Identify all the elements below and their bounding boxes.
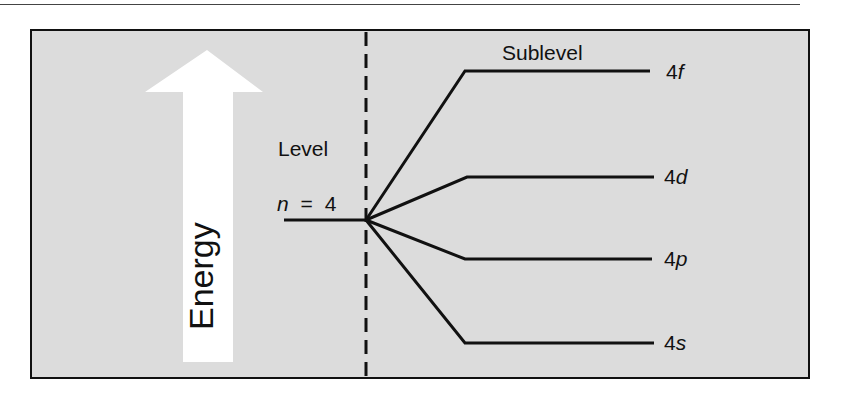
energy-level-diagram [0, 0, 849, 401]
sublevel-heading: Sublevel [502, 42, 583, 63]
sublevel-letter: d [676, 165, 688, 188]
sublevel-letter: p [676, 247, 688, 270]
sublevel-label-4f: 4f [666, 61, 684, 82]
sublevel-label-4s: 4s [664, 332, 686, 353]
level-label: Level [278, 138, 328, 159]
sublevel-letter: s [676, 331, 687, 354]
sublevel-letter: f [678, 60, 684, 83]
sublevel-line-4d [366, 177, 654, 220]
sublevel-principal: 4 [666, 60, 678, 83]
energy-axis-label: Energy [182, 222, 221, 330]
level-equals: = [301, 192, 313, 215]
sublevel-principal: 4 [664, 165, 676, 188]
level-symbol: n [277, 192, 289, 215]
sublevel-label-4p: 4p [664, 248, 687, 269]
level-n4-label: n = 4 [277, 193, 336, 214]
sublevel-principal: 4 [664, 247, 676, 270]
level-value: 4 [325, 192, 337, 215]
sublevel-label-4d: 4d [664, 166, 687, 187]
sublevel-line-4p [366, 220, 652, 259]
sublevel-principal: 4 [664, 331, 676, 354]
sublevel-line-4f [366, 71, 650, 220]
